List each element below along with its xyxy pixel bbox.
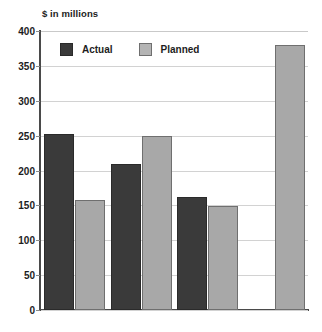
y-axis-caption: $ in millions xyxy=(42,8,98,19)
y-tick-mark-100 xyxy=(36,240,40,241)
y-tick-mark-250 xyxy=(36,136,40,137)
bar-actual-1990 xyxy=(111,164,141,310)
y-tick-mark-200 xyxy=(36,171,40,172)
y-tick-label-350: 350 xyxy=(18,61,35,72)
y-tick-label-250: 250 xyxy=(18,131,35,142)
y-tick-label-200: 200 xyxy=(18,166,35,177)
clipped-title-fragment xyxy=(34,0,234,3)
y-tick-mark-50 xyxy=(36,275,40,276)
bar-planned-1990 xyxy=(142,136,172,310)
y-tick-mark-0 xyxy=(36,310,40,311)
y-tick-mark-300 xyxy=(36,101,40,102)
bar-chart: $ in millions 05010015020025030035040019… xyxy=(0,0,322,332)
gridline-0 xyxy=(41,310,308,311)
y-tick-mark-400 xyxy=(36,31,40,32)
chart-legend: Actual Planned xyxy=(60,43,199,56)
gridline-300 xyxy=(41,101,308,102)
y-tick-label-100: 100 xyxy=(18,235,35,246)
bar-planned-1985 xyxy=(75,200,105,310)
y-tick-label-0: 0 xyxy=(29,305,35,316)
bar-actual-1995 xyxy=(177,197,207,310)
y-tick-mark-350 xyxy=(36,66,40,67)
bar-actual-1985 xyxy=(44,134,74,310)
legend-item-planned: Planned xyxy=(139,43,200,56)
y-tick-label-150: 150 xyxy=(18,200,35,211)
gridline-400 xyxy=(41,31,308,32)
y-tick-mark-150 xyxy=(36,205,40,206)
bar-planned-1995 xyxy=(208,206,238,310)
y-tick-label-300: 300 xyxy=(18,96,35,107)
plot-area: 0501001502002503003504001985199019952000… xyxy=(41,31,308,310)
legend-swatch-planned xyxy=(139,43,152,56)
gridline-200 xyxy=(41,171,308,172)
y-tick-label-400: 400 xyxy=(18,26,35,37)
legend-label-planned: Planned xyxy=(161,44,200,55)
legend-label-actual: Actual xyxy=(82,44,113,55)
legend-item-actual: Actual xyxy=(60,43,113,56)
legend-swatch-actual xyxy=(60,43,73,56)
gridline-250 xyxy=(41,136,308,137)
bar-planned-2000 xyxy=(275,45,305,310)
y-tick-label-50: 50 xyxy=(24,270,35,281)
gridline-350 xyxy=(41,66,308,67)
